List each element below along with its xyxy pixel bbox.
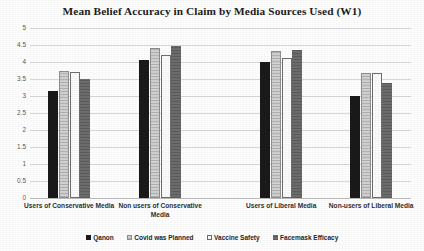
bar-group [350, 28, 392, 198]
bar [161, 55, 171, 198]
bar [171, 46, 181, 198]
x-axis-label: Users of Liberal Media [234, 202, 328, 211]
bar [350, 96, 360, 198]
legend-label: Qanon [93, 234, 114, 241]
y-axis-tick-label: 0.5 [0, 177, 26, 184]
x-axis-label: Users of Conservative Media [22, 202, 116, 211]
y-axis-tick-label: 0 [0, 194, 26, 201]
chart-legend: QanonCovid was PlannedVaccine SafetyFace… [0, 234, 424, 241]
legend-swatch-icon [86, 235, 91, 240]
legend-swatch-icon [207, 235, 212, 240]
legend-label: Covid was Planned [134, 234, 193, 241]
bar [361, 73, 371, 198]
bar [59, 71, 69, 198]
chart-title: Mean Belief Accuracy in Claim by Media S… [0, 5, 424, 17]
y-axis-tick-label: 4 [0, 58, 26, 65]
legend-swatch-icon [273, 235, 278, 240]
y-axis-tick-label: 1.5 [0, 143, 26, 150]
bar [382, 83, 392, 198]
x-axis-label: Non-users of Liberal Media [324, 202, 418, 211]
legend-label: Vaccine Safety [214, 234, 260, 241]
y-axis-tick-label: 2.5 [0, 109, 26, 116]
bar-group [139, 28, 181, 198]
bar [260, 62, 270, 198]
y-axis-tick-label: 5 [0, 24, 26, 31]
bar [372, 73, 382, 198]
legend-item[interactable]: Qanon [86, 234, 114, 241]
legend-item[interactable]: Vaccine Safety [207, 234, 260, 241]
legend-item[interactable]: Facemask Efficacy [273, 234, 339, 241]
x-axis-label: Non users of Conservative Media [113, 202, 207, 219]
legend-item[interactable]: Covid was Planned [127, 234, 194, 241]
bar-group [48, 28, 90, 198]
bar [80, 79, 90, 198]
y-axis-tick-label: 1 [0, 160, 26, 167]
bar [150, 48, 160, 198]
y-axis-tick-label: 3.5 [0, 75, 26, 82]
bar [282, 58, 292, 198]
bar [292, 50, 302, 198]
gridline [30, 198, 411, 199]
legend-label: Facemask Efficacy [280, 234, 338, 241]
bar-group [260, 28, 302, 198]
bar [139, 60, 149, 198]
bar [271, 51, 281, 198]
y-axis-tick-label: 4.5 [0, 41, 26, 48]
y-axis-tick-label: 3 [0, 92, 26, 99]
bar [48, 91, 58, 198]
legend-swatch-icon [127, 235, 132, 240]
bar [70, 72, 80, 198]
plot-area [30, 28, 411, 198]
bar-chart: Mean Belief Accuracy in Claim by Media S… [0, 0, 424, 251]
y-axis-tick-label: 2 [0, 126, 26, 133]
